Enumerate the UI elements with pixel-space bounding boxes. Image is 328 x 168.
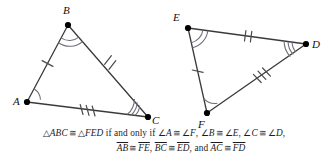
connector-text: if and only if xyxy=(106,128,156,138)
tick-marks-ab xyxy=(42,61,53,67)
congruent-symbol-c: ≅ xyxy=(258,128,268,138)
segment-fd: FD xyxy=(233,143,246,153)
vertex-dot-c xyxy=(145,114,151,120)
angle-name-c: C xyxy=(251,128,257,138)
vertex-label-d: D xyxy=(311,38,320,50)
triangle-symbol-2: △ xyxy=(78,128,85,138)
vertex-dot-e xyxy=(185,25,191,31)
triangles-diagram: A B C xyxy=(0,0,328,128)
angle-arc-a xyxy=(34,89,40,100)
segment-fe: FE xyxy=(138,143,150,153)
vertex-dot-f xyxy=(204,110,210,116)
caption-line-2: AB≅FE, BC≅ED, and AC≅FD xyxy=(0,141,328,156)
triangle-name-abc: ABC xyxy=(50,128,68,138)
angle-name-b: B xyxy=(209,128,215,138)
congruent-symbol-ac: ≅ xyxy=(223,143,233,153)
and-word: and xyxy=(194,143,208,153)
caption: △ABC≅△FED if and only if ∠A≅∠F, ∠B≅∠E, ∠… xyxy=(0,126,328,156)
vertex-label-a: A xyxy=(12,95,20,107)
vertex-dot-a xyxy=(24,99,30,105)
vertex-dot-b xyxy=(65,22,71,28)
vertex-label-b: B xyxy=(63,4,70,16)
segment-bc: BC xyxy=(155,143,167,153)
angle-name-a: A xyxy=(166,128,172,138)
congruent-symbol-b: ≅ xyxy=(215,128,225,138)
triangle-abc: A B C xyxy=(12,4,160,126)
vertex-label-e: E xyxy=(172,11,180,23)
angle-arc-f xyxy=(204,98,218,103)
angle-name-d: D xyxy=(276,128,283,138)
segment-ed: ED xyxy=(177,143,190,153)
congruent-symbol-1: ≅ xyxy=(68,128,78,138)
comma-3: , xyxy=(283,128,285,138)
angle-symbol-f: ∠ xyxy=(182,128,190,138)
tick-marks-ac xyxy=(80,105,95,117)
angle-symbol-a: ∠ xyxy=(158,128,166,138)
vertex-label-c: C xyxy=(152,114,160,126)
tick-marks-bc xyxy=(105,56,116,70)
congruent-symbol-a: ≅ xyxy=(172,128,182,138)
caption-line-1: △ABC≅△FED if and only if ∠A≅∠F, ∠B≅∠E, ∠… xyxy=(0,126,328,141)
triangle-name-fed: FED xyxy=(85,128,103,138)
side-ed xyxy=(188,28,306,44)
triangle-fed: E D F xyxy=(172,11,320,128)
angle-symbol-b: ∠ xyxy=(201,128,209,138)
angle-arcs-e xyxy=(191,30,208,48)
congruent-symbol-bc: ≅ xyxy=(167,143,177,153)
congruent-symbol-ab: ≅ xyxy=(128,143,138,153)
side-fd xyxy=(207,44,306,113)
angle-symbol-d: ∠ xyxy=(268,128,276,138)
segment-ac: AC xyxy=(211,143,223,153)
side-bc xyxy=(68,25,148,117)
triangle-symbol-1: △ xyxy=(43,128,50,138)
vertex-dot-d xyxy=(303,41,309,47)
segment-ab: AB xyxy=(117,143,129,153)
angle-arcs-c xyxy=(127,99,139,115)
geometry-figure: A B C xyxy=(0,0,328,168)
angle-symbol-e: ∠ xyxy=(225,128,233,138)
